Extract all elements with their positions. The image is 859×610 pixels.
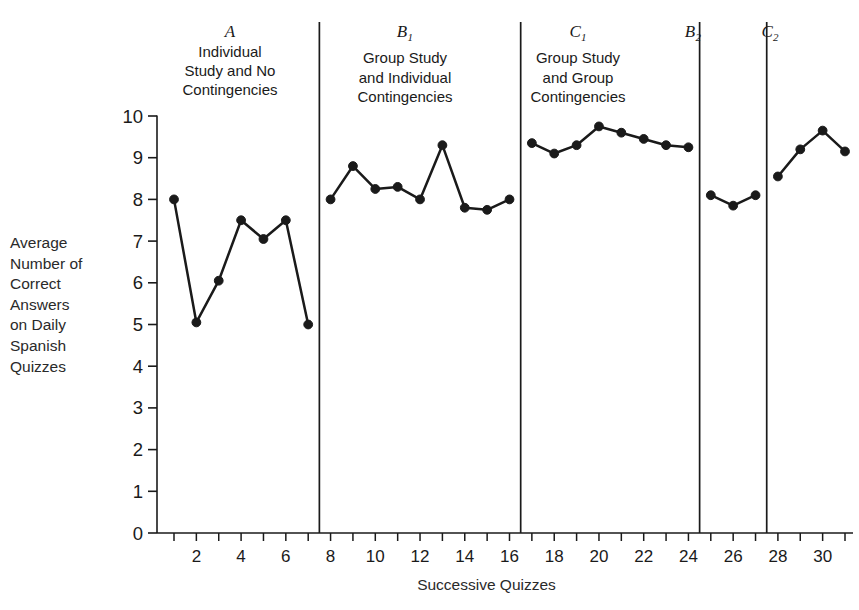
y-tick-label: 3 [133,397,143,418]
y-tick-label: 10 [122,106,143,127]
phase-header-c2: C2 [735,22,805,47]
data-point-marker [774,172,783,181]
y-tick-label: 0 [133,523,143,544]
data-point-marker [371,185,380,194]
phase-letter-c2: C2 [735,22,805,47]
data-point-marker [572,141,581,150]
data-point-marker [393,182,402,191]
y-tick-label: 5 [133,314,143,335]
phase-letter-a: A [160,22,300,41]
x-tick-label: 30 [813,547,832,566]
data-point-marker [460,203,469,212]
y-tick-label: 2 [133,439,143,460]
phase-header-c1: C1Group Study and Group Contingencies [508,22,648,106]
x-tick-label: 18 [545,547,564,566]
x-tick-label: 22 [634,547,653,566]
x-tick-label: 28 [768,547,787,566]
x-tick-label: 16 [500,547,519,566]
phase-header-b1: B1Group Study and Individual Contingenci… [335,22,475,106]
y-tick-label: 8 [133,189,143,210]
phase-letter-c1: C1 [508,22,648,47]
data-point-marker [438,141,447,150]
data-point-marker [729,201,738,210]
phase-description-c1: Group Study and Group Contingencies [508,48,648,106]
phase-header-b2: B2 [658,22,728,47]
x-tick-label: 8 [326,547,335,566]
phase-subscript: 2 [773,31,779,43]
x-tick-label: 26 [724,547,743,566]
data-point-marker [192,318,201,327]
phase-subscript: 2 [695,31,701,43]
x-tick-label: 24 [679,547,698,566]
y-tick-label: 6 [133,272,143,293]
phase-description-b1: Group Study and Individual Contingencies [335,48,475,106]
data-point-marker [349,162,358,171]
x-tick-label: 20 [590,547,609,566]
data-point-marker [237,216,246,225]
phase-subscript: 1 [581,31,587,43]
data-point-marker [214,276,223,285]
tick-label-group: 01234567891024681012141618202224262830 [122,106,832,567]
y-tick-label: 7 [133,231,143,252]
data-point-marker [595,122,604,131]
data-point-marker [281,216,290,225]
data-point-marker [527,139,536,148]
data-point-marker [706,191,715,200]
data-point-marker [550,149,559,158]
data-point-marker [304,320,313,329]
x-tick-label: 4 [236,547,245,566]
x-tick-label: 2 [192,547,201,566]
data-point-marker [259,235,268,244]
x-axis-title-text: Successive Quizzes [417,576,556,593]
data-point-marker [483,205,492,214]
axes-group [148,116,853,542]
x-axis-title: Successive Quizzes [0,576,859,594]
data-point-marker [818,126,827,135]
data-point-marker [662,141,671,150]
series-line [778,131,845,177]
phase-subscript: 1 [407,31,413,43]
data-point-marker [639,135,648,144]
y-tick-label: 9 [133,147,143,168]
data-point-marker [841,147,850,156]
y-tick-label: 1 [133,481,143,502]
data-point-marker [617,128,626,137]
data-point-marker [684,143,693,152]
chart-figure: 01234567891024681012141618202224262830 A… [0,0,859,610]
data-point-marker [751,191,760,200]
data-point-marker [796,145,805,154]
phase-letter-b2: B2 [658,22,728,47]
data-point-marker [505,195,514,204]
data-point-marker [326,195,335,204]
data-series-group [170,122,850,329]
y-axis-title: Average Number of Correct Answers on Dai… [10,233,115,377]
phase-letter-b1: B1 [335,22,475,47]
phase-header-a: AIndividual Study and No Contingencies [160,22,300,100]
x-tick-label: 6 [281,547,290,566]
x-tick-label: 14 [455,547,474,566]
phase-description-a: Individual Study and No Contingencies [160,42,300,100]
data-point-marker [416,195,425,204]
x-tick-label: 10 [366,547,385,566]
x-tick-label: 12 [411,547,430,566]
data-point-marker [170,195,179,204]
y-tick-label: 4 [133,356,143,377]
